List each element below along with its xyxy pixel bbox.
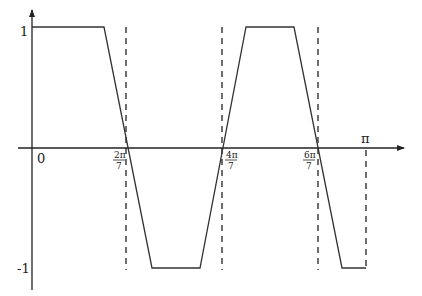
- y-tick-label-1: 1: [20, 24, 28, 39]
- frac-denominator: 7: [116, 161, 122, 171]
- x-tick-label-6pi-7: 6π 7: [303, 150, 316, 171]
- x-tick-label-4pi-7: 4π 7: [225, 150, 238, 171]
- frac-denominator: 7: [228, 161, 234, 171]
- frac-numerator: 2π: [114, 150, 126, 160]
- frac-numerator: 4π: [226, 150, 238, 160]
- trapezoid-wave-chart: 1 -1 0 2π 7 4π 7 6π 7 π: [0, 0, 422, 296]
- x-tick-label-2pi-7: 2π 7: [113, 150, 126, 171]
- x-tick-label-0: 0: [37, 151, 45, 166]
- frac-denominator: 7: [306, 161, 312, 171]
- frac-numerator: 6π: [304, 150, 316, 160]
- x-tick-label-pi: π: [361, 131, 370, 146]
- y-tick-label-neg1: -1: [17, 261, 30, 276]
